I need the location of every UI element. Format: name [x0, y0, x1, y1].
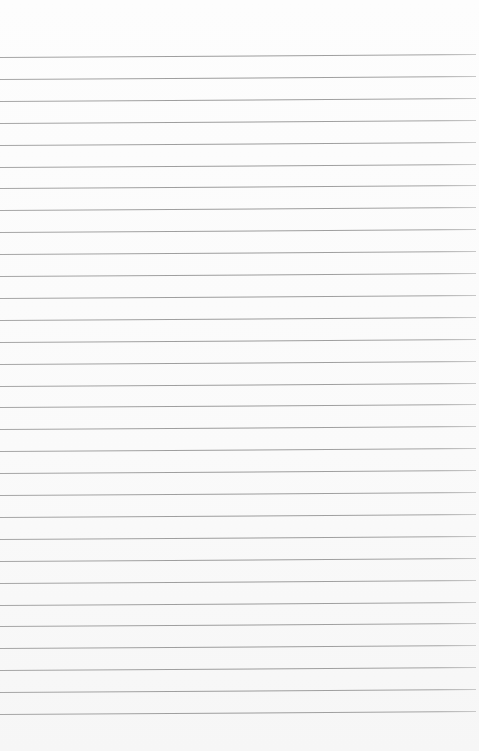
ruled-line — [0, 339, 476, 343]
ruled-line — [0, 142, 476, 146]
ruled-line — [0, 295, 476, 299]
ruled-line — [0, 251, 476, 255]
ruled-line — [0, 711, 476, 715]
ruled-line — [0, 602, 476, 606]
ruled-line — [0, 383, 476, 387]
ruled-line — [0, 623, 476, 627]
ruled-line — [0, 645, 476, 649]
ruled-line — [0, 558, 476, 562]
ruled-line — [0, 229, 476, 233]
ruled-line — [0, 470, 476, 474]
ruled-line — [0, 404, 476, 408]
ruled-line — [0, 207, 476, 211]
ruled-line — [0, 492, 476, 496]
ruled-line — [0, 54, 476, 58]
ruled-line — [0, 448, 476, 452]
ruled-line — [0, 120, 476, 124]
ruled-line — [0, 426, 476, 430]
ruled-line — [0, 667, 476, 671]
ruled-line — [0, 361, 476, 365]
ruled-line — [0, 76, 476, 80]
ruled-line — [0, 689, 476, 693]
ruled-line — [0, 273, 476, 277]
ruled-line — [0, 317, 476, 321]
ruled-line — [0, 536, 476, 540]
ruled-line — [0, 514, 476, 518]
ruled-line — [0, 164, 476, 168]
ruled-line — [0, 98, 476, 102]
lined-paper-sheet — [0, 0, 479, 751]
ruled-line — [0, 185, 476, 189]
ruled-line — [0, 580, 476, 584]
